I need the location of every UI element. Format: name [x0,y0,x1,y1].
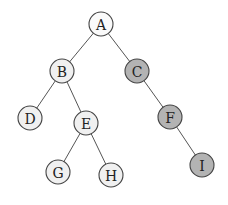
node-label: E [81,116,91,132]
node-label: B [57,64,67,80]
node-label: G [52,165,63,181]
node-label: H [105,168,117,184]
node-label: A [95,17,107,33]
tree-node-h: H [99,163,123,187]
node-label: C [132,64,143,80]
tree-node-i: I [190,153,214,177]
tree-node-g: G [46,160,70,184]
tree-node-b: B [50,59,74,83]
tree-node-c: C [125,59,149,83]
tree-node-d: D [18,106,42,130]
tree-node-f: F [158,105,182,129]
tree-node-a: A [89,12,113,36]
node-label: F [165,110,175,126]
tree-node-e: E [74,111,98,135]
edges-group [30,24,202,175]
node-label: D [24,111,35,127]
binary-tree-diagram: ABCDEFGHI [0,0,228,205]
nodes-group: ABCDEFGHI [18,12,214,187]
node-label: I [199,158,205,174]
